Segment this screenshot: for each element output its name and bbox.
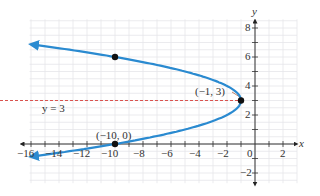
x-tick-label-neg10: −10	[101, 148, 118, 159]
y-tick-label-8: 8	[245, 22, 251, 33]
x-axis-label: x	[299, 138, 304, 149]
y-tick-label-neg2: −2	[240, 167, 252, 178]
point-neg10-6	[112, 54, 118, 60]
x-tick-label-neg14: −14	[45, 148, 62, 159]
x-tick-label-neg6: −6	[161, 148, 173, 159]
x-tick-label-0: 0	[247, 148, 253, 159]
y-axis-label: y	[252, 6, 257, 17]
vertex-label: (−1, 3)	[195, 86, 225, 97]
x-tick-label-neg4: −4	[189, 148, 201, 159]
vertex-point	[238, 97, 244, 103]
y-tick-label-6: 6	[245, 51, 251, 62]
x-tick-label-neg12: −12	[73, 148, 90, 159]
x-tick-label-neg2: −2	[217, 148, 229, 159]
x-tick-label-2: 2	[280, 148, 286, 159]
y-tick-label-4: 4	[245, 80, 251, 91]
x-tick-label-neg8: −8	[133, 148, 145, 159]
x-tick-label-neg16: −16	[17, 148, 34, 159]
symmetry-label: y = 3	[42, 103, 65, 114]
x-intercept-label: (−10, 0)	[96, 130, 132, 141]
y-tick-label-2: 2	[245, 109, 251, 120]
parabola-graph	[0, 0, 320, 196]
